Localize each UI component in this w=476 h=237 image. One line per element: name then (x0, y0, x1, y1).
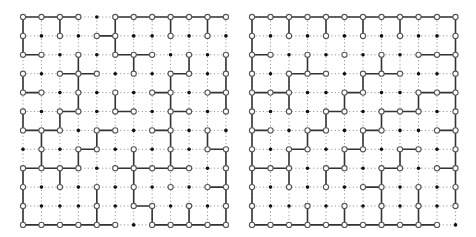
open-node (342, 166, 347, 171)
open-node (268, 52, 273, 57)
lattice-figure (0, 0, 476, 237)
open-node (286, 90, 291, 95)
open-node (205, 128, 210, 133)
open-node (150, 14, 155, 19)
open-node (397, 109, 402, 114)
open-node (205, 185, 210, 190)
filled-node (343, 34, 347, 38)
filled-node (269, 34, 273, 38)
open-node (416, 52, 421, 57)
open-node (397, 33, 402, 38)
open-node (249, 203, 254, 208)
open-node (186, 222, 191, 227)
open-node (186, 166, 191, 171)
open-node (131, 71, 136, 76)
open-node (434, 166, 439, 171)
filled-node (224, 34, 228, 38)
open-node (360, 90, 365, 95)
open-node (113, 14, 118, 19)
open-node (223, 147, 228, 152)
open-node (286, 147, 291, 152)
open-node (20, 166, 25, 171)
open-node (453, 14, 458, 19)
filled-node (206, 166, 210, 170)
open-node (76, 109, 81, 114)
open-node (76, 90, 81, 95)
filled-node (361, 166, 365, 170)
filled-node (113, 148, 117, 152)
open-node (57, 222, 62, 227)
filled-node (187, 129, 191, 133)
open-node (323, 14, 328, 19)
filled-node (269, 72, 273, 76)
filled-node (113, 72, 117, 76)
open-node (360, 185, 365, 190)
filled-node (324, 53, 328, 57)
open-node (131, 14, 136, 19)
open-node (113, 166, 118, 171)
filled-node (398, 204, 402, 208)
open-node (150, 128, 155, 133)
filled-node (306, 91, 310, 95)
filled-node (324, 148, 328, 152)
open-node (94, 222, 99, 227)
open-node (268, 128, 273, 133)
open-node (323, 128, 328, 133)
open-node (131, 109, 136, 114)
open-node (416, 14, 421, 19)
filled-node (77, 129, 81, 133)
open-node (113, 109, 118, 114)
filled-node (132, 223, 136, 227)
open-node (249, 14, 254, 19)
filled-node (206, 204, 210, 208)
open-node (416, 147, 421, 152)
open-node (39, 52, 44, 57)
filled-node (380, 34, 384, 38)
open-node (168, 33, 173, 38)
open-node (39, 222, 44, 227)
filled-node (58, 53, 62, 57)
open-node (342, 14, 347, 19)
filled-node (361, 110, 365, 114)
filled-node (58, 148, 62, 152)
open-node (360, 128, 365, 133)
open-node (379, 203, 384, 208)
open-node (397, 14, 402, 19)
open-node (268, 90, 273, 95)
open-node (57, 33, 62, 38)
filled-node (95, 53, 99, 57)
open-node (305, 14, 310, 19)
open-node (76, 147, 81, 152)
open-node (305, 128, 310, 133)
dotted-grid-lines (252, 17, 456, 225)
filled-node (417, 72, 421, 76)
open-node (39, 147, 44, 152)
open-node (168, 109, 173, 114)
filled-node (150, 185, 154, 189)
filled-node (150, 110, 154, 114)
lattice-nodes (249, 14, 458, 227)
filled-node (435, 148, 439, 152)
filled-node (306, 166, 310, 170)
open-node (453, 166, 458, 171)
open-node (39, 90, 44, 95)
filled-node (113, 185, 117, 189)
filled-node (224, 129, 228, 133)
open-node (131, 147, 136, 152)
open-node (416, 185, 421, 190)
open-node (453, 109, 458, 114)
filled-node (187, 148, 191, 152)
filled-node (40, 185, 44, 189)
open-node (416, 90, 421, 95)
filled-node (58, 91, 62, 95)
open-node (379, 52, 384, 57)
open-node (268, 222, 273, 227)
filled-node (343, 72, 347, 76)
filled-node (187, 91, 191, 95)
open-node (416, 109, 421, 114)
open-node (205, 222, 210, 227)
open-node (205, 14, 210, 19)
open-node (223, 71, 228, 76)
open-node (94, 185, 99, 190)
open-node (360, 71, 365, 76)
